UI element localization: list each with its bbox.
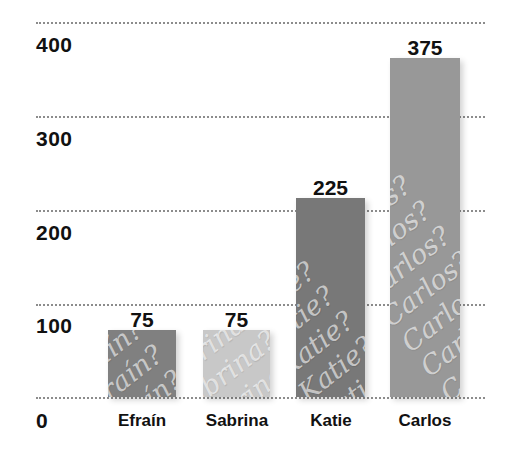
bar-efrain[interactable]: Efraín? Efraín? Efraín? Efraín? Efraín? …: [108, 330, 176, 397]
value-label-carlos: 375: [390, 36, 460, 60]
bar-watermark-katie: Katie? Katie? Katie? Katie? Katie? Katie…: [296, 198, 365, 397]
value-label-efrain: 75: [108, 308, 176, 332]
value-label-katie: 225: [296, 176, 365, 200]
bar-sabrina[interactable]: Sabrina? Sabrina? Sabrina? Sabrina? Sabr…: [203, 330, 270, 397]
bar-watermark-sabrina: Sabrina? Sabrina? Sabrina? Sabrina? Sabr…: [203, 330, 270, 397]
ytick-label-400: 400: [36, 33, 73, 57]
bar-carlos[interactable]: Carlos? Carlos? Carlos? Carlos? Carlos? …: [390, 58, 460, 397]
value-label-sabrina: 75: [203, 308, 270, 332]
category-label-efrain: Efraín: [98, 411, 186, 431]
bar-watermark-efrain: Efraín? Efraín? Efraín? Efraín? Efraín? …: [108, 330, 176, 397]
plot-area: 400 300 200 100 0 Efraín? Efraín? Efraín…: [0, 0, 511, 449]
ytick-label-100: 100: [36, 314, 73, 338]
ytick-label-0: 0: [36, 409, 48, 433]
gridline-400: [36, 22, 485, 24]
bar-chart: 400 300 200 100 0 Efraín? Efraín? Efraín…: [0, 0, 511, 449]
category-label-carlos: Carlos: [381, 411, 469, 431]
ytick-label-200: 200: [36, 221, 73, 245]
ytick-label-300: 300: [36, 127, 73, 151]
bar-katie[interactable]: Katie? Katie? Katie? Katie? Katie? Katie…: [296, 198, 365, 397]
gridline-0: [36, 397, 485, 399]
category-label-sabrina: Sabrina: [190, 411, 284, 431]
bar-watermark-carlos: Carlos? Carlos? Carlos? Carlos? Carlos? …: [390, 58, 460, 397]
category-label-katie: Katie: [288, 411, 374, 431]
